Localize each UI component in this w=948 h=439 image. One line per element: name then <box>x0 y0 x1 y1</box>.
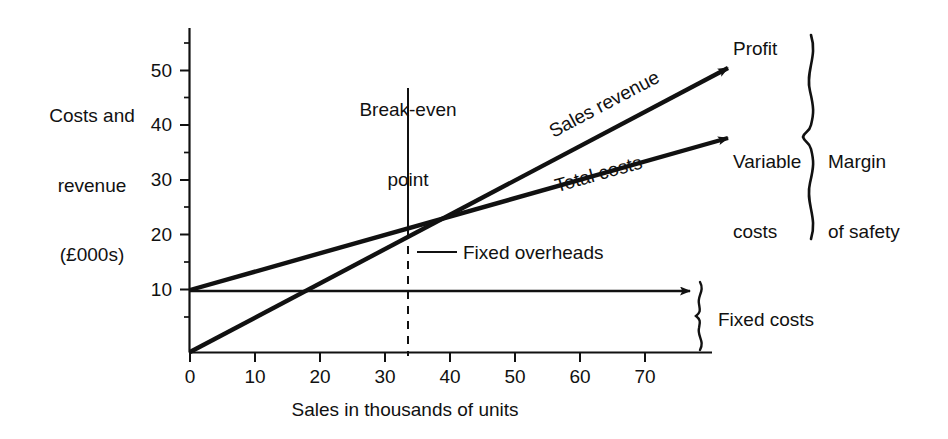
margin-of-safety-line-2: of safety <box>828 220 944 243</box>
y-axis-title-line-3: (£000s) <box>12 243 172 266</box>
x-tick-label-70: 70 <box>625 365 665 388</box>
fixed-costs-label: Fixed costs <box>718 308 814 331</box>
margin-of-safety-brace <box>803 35 813 239</box>
x-axis-title: Sales in thousands of units <box>225 398 585 421</box>
margin-of-safety-line-1: Margin <box>828 150 944 173</box>
variable-costs-line-1: Variable <box>733 150 801 173</box>
x-tick-label-60: 60 <box>560 365 600 388</box>
x-tick-label-40: 40 <box>430 365 470 388</box>
break-even-point-line-2: point <box>318 168 498 191</box>
x-tick-label-0: 0 <box>170 365 210 388</box>
y-tick-label-50: 50 <box>134 59 172 82</box>
x-tick-label-30: 30 <box>365 365 405 388</box>
fixed-overheads-label: Fixed overheads <box>463 241 603 264</box>
y-tick-label-40: 40 <box>134 113 172 136</box>
x-tick-label-50: 50 <box>495 365 535 388</box>
y-tick-label-10: 10 <box>134 278 172 301</box>
y-tick-label-30: 30 <box>134 168 172 191</box>
variable-costs-line-2: costs <box>733 220 801 243</box>
break-even-chart: Costs and revenue (£000s) 50 40 30 20 10… <box>0 0 948 439</box>
margin-of-safety-label: Margin of safety <box>828 104 944 289</box>
x-tick-label-10: 10 <box>235 365 275 388</box>
profit-label: Profit <box>733 37 777 60</box>
break-even-point-line-1: Break-even <box>318 98 498 121</box>
x-tick-label-20: 20 <box>300 365 340 388</box>
y-tick-label-20: 20 <box>134 223 172 246</box>
fixed-costs-brace <box>696 282 702 350</box>
variable-costs-label: Variable costs <box>733 104 801 289</box>
break-even-point-label: Break-even point <box>318 52 498 237</box>
